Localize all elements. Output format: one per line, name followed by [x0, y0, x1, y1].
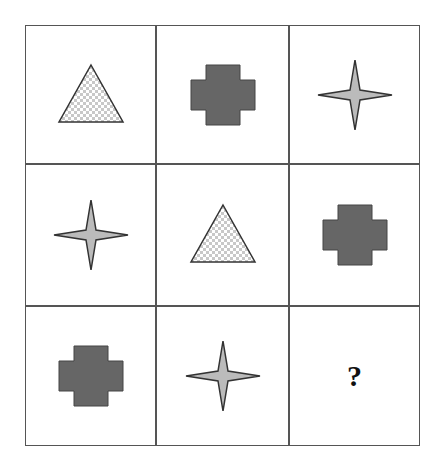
cell-r2-c1: [156, 306, 289, 446]
cross-icon: [190, 64, 256, 126]
cell-r0-c2: [289, 26, 420, 164]
cell-r1-c2: [289, 164, 420, 306]
star-icon: [185, 340, 261, 412]
cell-r1-c1: [156, 164, 289, 306]
star-icon: [53, 199, 129, 271]
triangle-icon: [56, 63, 126, 127]
cell-r1-c0: [26, 164, 156, 306]
cell-r0-c0: [26, 26, 156, 164]
triangle-icon: [188, 203, 258, 267]
cell-r0-c1: [156, 26, 289, 164]
cell-r2-c0: [26, 306, 156, 446]
puzzle-grid: ?: [25, 25, 420, 446]
cross-icon: [58, 345, 124, 407]
cross-icon: [322, 204, 388, 266]
star-icon: [317, 59, 393, 131]
question-mark: ?: [347, 359, 362, 393]
cell-r2-c2: ?: [289, 306, 420, 446]
